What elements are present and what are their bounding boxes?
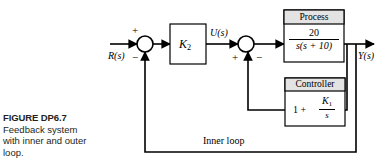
controller-denominator: s xyxy=(316,111,338,120)
block-diagram: R(s) U(s) Y(s) Inner loop + − + − K2 Pro… xyxy=(0,0,387,167)
inner-loop-label: Inner loop xyxy=(203,136,244,146)
process-transfer-function: 20 s(s + 10) xyxy=(284,28,344,51)
wire-inner-feedback-left xyxy=(248,52,285,110)
gain-block-subscript: 2 xyxy=(187,43,191,52)
controller-numerator: K1 xyxy=(316,96,338,108)
controller-integral-term: K1 s xyxy=(316,96,338,120)
inner-summing-junction xyxy=(238,36,254,52)
outer-junction-minus-sign: − xyxy=(132,52,138,63)
controller-gain-subscript: 1 xyxy=(329,100,332,107)
controller-block-title: Controller xyxy=(285,80,345,90)
outer-summing-junction xyxy=(137,36,153,52)
output-signal-label: Y(s) xyxy=(358,51,374,61)
intermediate-signal-label: U(s) xyxy=(210,28,228,38)
controller-gain-symbol: K xyxy=(322,95,329,106)
input-signal-label: R(s) xyxy=(108,51,125,61)
outer-junction-plus-sign: + xyxy=(132,25,138,36)
gain-block-label: K2 xyxy=(179,38,191,52)
inner-junction-plus-sign: + xyxy=(232,52,238,63)
process-block-title: Process xyxy=(284,13,344,23)
controller-lead-term: 1 + xyxy=(293,105,306,115)
gain-block-symbol: K xyxy=(179,37,187,51)
process-denominator: s(s + 10) xyxy=(284,41,344,51)
process-numerator: 20 xyxy=(284,28,344,38)
inner-junction-minus-sign: − xyxy=(256,52,262,63)
